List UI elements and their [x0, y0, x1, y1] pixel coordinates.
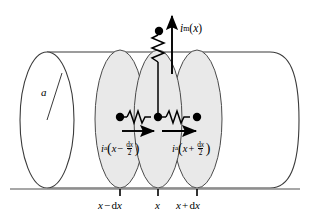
- axial-left-paren-close: ): [135, 143, 140, 154]
- diagram-canvas: [0, 0, 311, 222]
- node-left: [116, 113, 124, 121]
- x-axis-baseline: [10, 189, 300, 196]
- axial-left-denominator: 2: [127, 148, 133, 156]
- axial-current-right-label: ia(x+ dx 2 ): [172, 141, 210, 157]
- axial-left-fraction: dx 2: [125, 141, 134, 157]
- axial-right-fraction: dx 2: [196, 141, 205, 157]
- cylinder-right-end: [270, 52, 299, 188]
- radius-label: a: [41, 86, 47, 98]
- tick-label-left: x−dx: [98, 199, 122, 211]
- axial-right-denominator: 2: [198, 148, 204, 156]
- membrane-current-paren-close: ): [198, 23, 202, 35]
- axial-right-numerator: dx: [196, 141, 205, 148]
- node-right: [193, 113, 201, 121]
- axon-cable-diagram: a im(x) ia(x− dx 2 ) ia(x+ dx 2 ) x−dx x…: [0, 0, 311, 222]
- node-center: [154, 113, 162, 121]
- tick-label-right: x+dx: [176, 199, 200, 211]
- node-top: [155, 27, 163, 35]
- axial-right-paren-close: ): [206, 143, 211, 154]
- axial-right-operator: +: [187, 144, 195, 155]
- tick-label-center: x: [155, 199, 160, 211]
- axial-left-numerator: dx: [125, 141, 134, 148]
- membrane-current-label: im(x): [180, 22, 202, 35]
- axial-current-left-label: ia(x− dx 2 ): [101, 141, 139, 157]
- axial-left-operator: −: [116, 144, 124, 155]
